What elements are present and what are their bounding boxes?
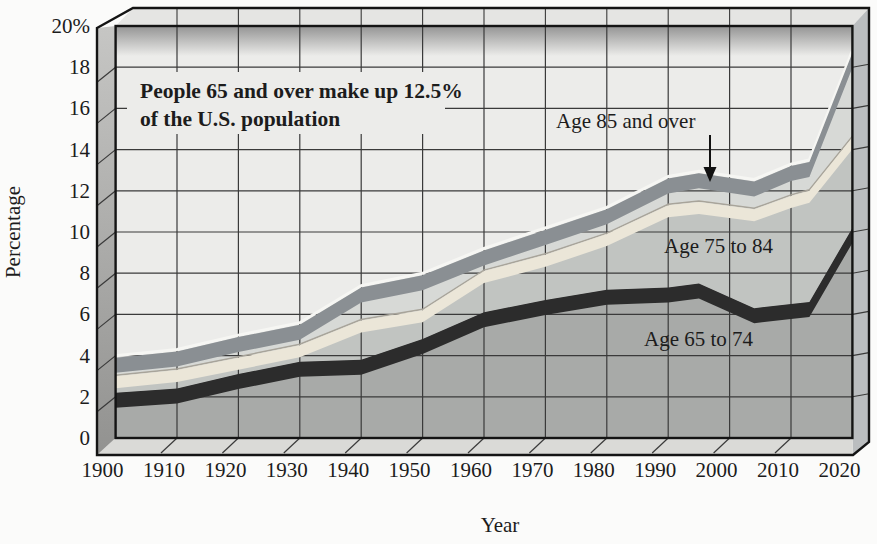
y-tick-label: 20%	[52, 14, 91, 38]
plot-area: People 65 and over make up 12.5%of the U…	[116, 26, 853, 438]
chart-figure: People 65 and over make up 12.5%of the U…	[0, 0, 877, 544]
x-tick-label: 2020	[818, 458, 860, 482]
frame-left-wall	[97, 26, 116, 455]
y-tick-label: 12	[69, 179, 90, 203]
annotation-line2: of the U.S. population	[140, 107, 340, 131]
y-axis-title: Percentage	[1, 186, 25, 278]
x-tick-label: 1950	[389, 458, 431, 482]
label-age-65-to-74: Age 65 to 74	[644, 327, 754, 351]
y-tick-label: 4	[80, 344, 91, 368]
x-axis-title: Year	[481, 513, 520, 537]
y-tick-label: 2	[80, 385, 91, 409]
x-tick-label: 1970	[511, 458, 553, 482]
annotation-line1: People 65 and over make up 12.5%	[140, 79, 463, 103]
x-tick-label: 1930	[266, 458, 308, 482]
x-tick-label: 1910	[143, 458, 185, 482]
y-tick-label: 0	[80, 426, 91, 450]
frame-top-face	[116, 8, 869, 26]
label-age-85-and-over: Age 85 and over	[556, 109, 695, 133]
aging-population-chart: People 65 and over make up 12.5%of the U…	[0, 0, 877, 544]
y-tick-label: 16	[69, 96, 90, 120]
x-tick-label: 2010	[757, 458, 799, 482]
y-tick-label: 6	[80, 302, 91, 326]
y-tick-label: 8	[80, 261, 91, 285]
y-tick-label: 14	[69, 138, 91, 162]
y-tick-label: 18	[69, 55, 90, 79]
x-tick-label: 1900	[82, 458, 124, 482]
y-tick-label: 10	[69, 220, 90, 244]
x-tick-label: 1990	[634, 458, 676, 482]
x-tick-label: 1940	[327, 458, 369, 482]
x-tick-label: 1920	[204, 458, 246, 482]
x-tick-label: 1960	[450, 458, 492, 482]
label-age-75-to-84: Age 75 to 84	[664, 234, 774, 258]
x-tick-label: 2000	[696, 458, 738, 482]
x-tick-label: 1980	[573, 458, 615, 482]
